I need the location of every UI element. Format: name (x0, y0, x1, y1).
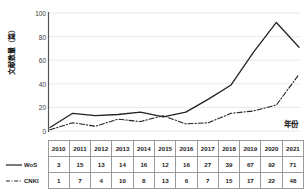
table-cell: 67 (240, 157, 261, 173)
table-cell: 16 (133, 157, 154, 173)
table-col-header: 2016 (176, 141, 197, 157)
table-cell: 22 (261, 173, 282, 189)
chart-data-table: 2010 2011 2012 2013 2014 2015 2016 2017 … (4, 140, 304, 189)
series-line-cnki (50, 74, 299, 129)
table-cell: 7 (197, 173, 218, 189)
gridlines (48, 13, 300, 131)
table-cell: 48 (282, 173, 303, 189)
table-col-header: 2017 (197, 141, 218, 157)
plot-area: 文献数量（篇） 100 80 60 40 20 0 年份 (0, 0, 308, 140)
table-cell: 92 (261, 157, 282, 173)
table-col-header: 2010 (48, 141, 69, 157)
table-col-header: 2020 (261, 141, 282, 157)
x-axis-title: 年份 (284, 118, 298, 129)
table-cell: 13 (91, 157, 112, 173)
series-line-wos (50, 22, 299, 127)
table-col-header: 2018 (218, 141, 239, 157)
table-col-header: 2021 (282, 141, 303, 157)
table-cell: 4 (91, 173, 112, 189)
table-col-header: 2013 (112, 141, 133, 157)
table-col-header: 2015 (154, 141, 175, 157)
table-cell: 15 (69, 157, 90, 173)
legend-label-cnki: CNKI (24, 178, 39, 184)
table-corner-cell (4, 141, 48, 157)
solid-line-icon (6, 162, 22, 168)
table-cell: 71 (282, 157, 303, 173)
table-row: CNKI 1 7 4 10 8 13 6 7 15 17 22 48 (4, 173, 304, 189)
table-col-header: 2011 (69, 141, 90, 157)
legend-entry-cnki: CNKI (4, 173, 48, 189)
chart-canvas (0, 0, 308, 140)
table-header-row: 2010 2011 2012 2013 2014 2015 2016 2017 … (4, 141, 304, 157)
table-cell: 10 (112, 173, 133, 189)
table-cell: 12 (154, 157, 175, 173)
table-col-header: 2012 (91, 141, 112, 157)
table-cell: 15 (218, 173, 239, 189)
legend-entry-wos: WoS (4, 157, 48, 173)
table-cell: 13 (154, 173, 175, 189)
legend-label-wos: WoS (24, 162, 37, 168)
table-cell: 27 (197, 157, 218, 173)
table-col-header: 2014 (133, 141, 154, 157)
table-cell: 1 (48, 173, 69, 189)
publication-count-line-chart: 文献数量（篇） 100 80 60 40 20 0 年份 (0, 0, 308, 192)
table-cell: 8 (133, 173, 154, 189)
table-cell: 6 (176, 173, 197, 189)
table-col-header: 2019 (240, 141, 261, 157)
table-cell: 7 (69, 173, 90, 189)
dash-dot-line-icon (6, 178, 22, 184)
table-cell: 3 (48, 157, 69, 173)
table-cell: 14 (112, 157, 133, 173)
table-cell: 16 (176, 157, 197, 173)
table-cell: 17 (240, 173, 261, 189)
table-cell: 39 (218, 157, 239, 173)
table-row: WoS 3 15 13 14 16 12 16 27 39 67 92 71 (4, 157, 304, 173)
